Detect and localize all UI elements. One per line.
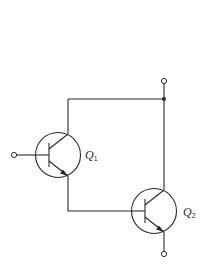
base-terminal	[11, 152, 16, 157]
q1-label: Q1	[85, 148, 98, 162]
collector-terminal	[161, 78, 166, 83]
q2-label: Q2	[183, 205, 196, 219]
darlington-circuit: Q1 Q2	[0, 0, 205, 271]
q1-emitter-to-q2-base	[68, 176, 132, 211]
transistor-q2	[132, 189, 177, 234]
emitter-terminal	[161, 251, 166, 256]
transistor-q1	[36, 133, 81, 178]
